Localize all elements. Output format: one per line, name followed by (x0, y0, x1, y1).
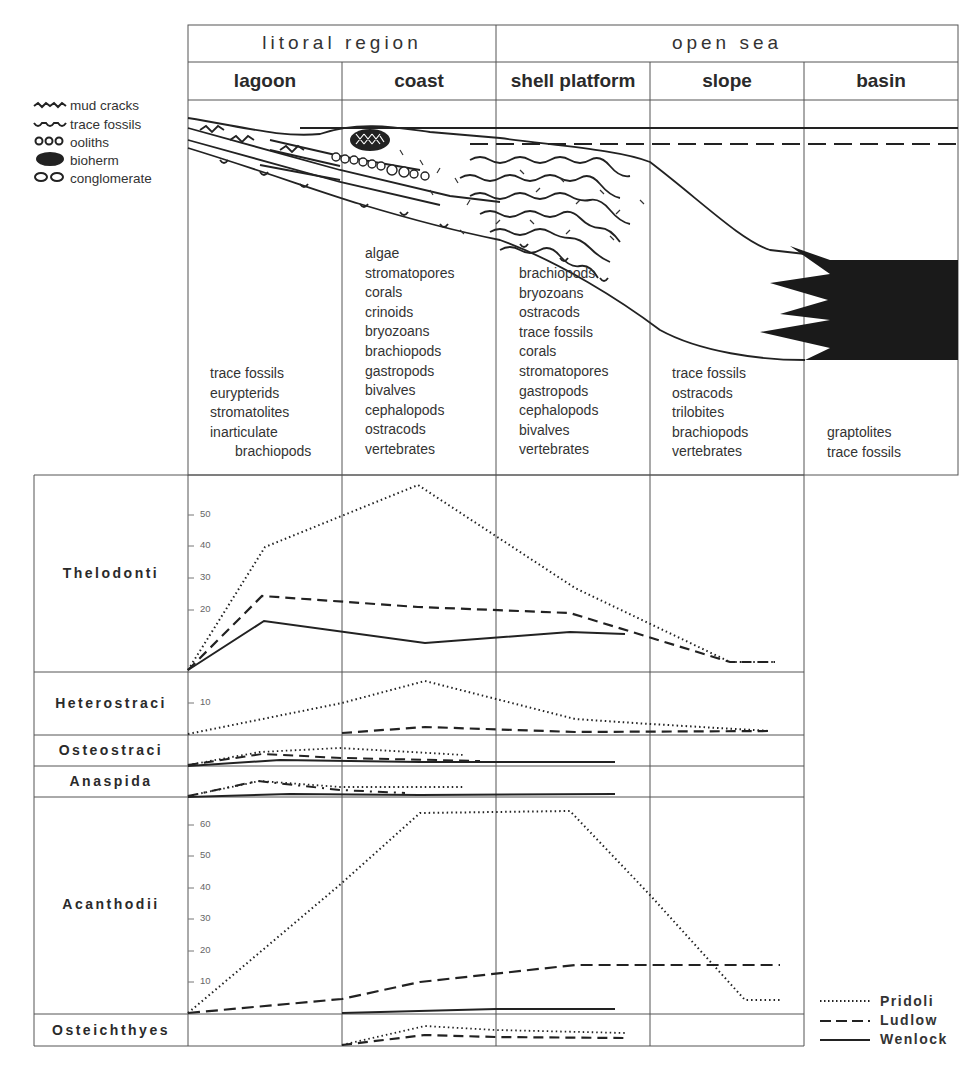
group-thelodonti: Thelodonti (34, 565, 188, 581)
tick-label: 10 (200, 696, 211, 707)
fauna-item: cephalopods (365, 401, 454, 421)
fauna-item: ostracods (672, 384, 748, 404)
fauna-item: stromatolites (210, 403, 311, 423)
tick-label: 10 (200, 975, 211, 986)
basin-shale (760, 246, 958, 360)
header-litoral-region: litoral region (188, 32, 496, 54)
anaspida-curves (188, 781, 615, 797)
acanthodii-curves (188, 811, 780, 1013)
fauna-item: brachiopods (672, 423, 748, 443)
fauna-item: graptolites (827, 423, 901, 443)
fauna-item: brachiopods (210, 442, 311, 462)
fauna-item: vertebrates (365, 440, 454, 460)
facies-diagram: litoral region open sea lagoon coast she… (0, 0, 978, 1070)
fauna-item: trace fossils (672, 364, 748, 384)
fauna-item: bivalves (519, 421, 608, 441)
fauna-lagoon: trace fossils eurypterids stromatolites … (210, 364, 311, 462)
fauna-item: bryozoans (365, 322, 454, 342)
fauna-coast: algae stromatopores corals crinoids bryo… (365, 244, 454, 460)
fauna-item: crinoids (365, 303, 454, 323)
column-lagoon: lagoon (188, 70, 342, 92)
header-open-sea: open sea (496, 32, 958, 54)
group-osteichthyes: Osteichthyes (34, 1022, 188, 1038)
tick-marks (188, 515, 194, 982)
group-anaspida: Anaspida (34, 773, 188, 789)
group-heterostraci: Heterostraci (34, 695, 188, 711)
fauna-item: stromatopores (365, 264, 454, 284)
tick-label: 30 (200, 912, 211, 923)
legend-bioherm: bioherm (70, 152, 119, 168)
sea-level-lines (300, 128, 958, 144)
fauna-item: brachiopods (519, 264, 608, 284)
legend-wenlock: Wenlock (880, 1031, 948, 1047)
fauna-item: cephalopods (519, 401, 608, 421)
fauna-item: trace fossils (827, 443, 901, 463)
fauna-slope: trace fossils ostracods trilobites brach… (672, 364, 748, 462)
tick-label: 40 (200, 881, 211, 892)
group-osteostraci: Osteostraci (34, 742, 188, 758)
tick-label: 20 (200, 944, 211, 955)
fauna-item: corals (365, 283, 454, 303)
fauna-item: bryozoans (519, 284, 608, 304)
heterostraci-curves (188, 681, 770, 734)
fauna-item: eurypterids (210, 384, 311, 404)
legend-conglomerate: conglomerate (70, 170, 152, 186)
group-acanthodii: Acanthodii (34, 896, 188, 912)
legend-pridoli: Pridoli (880, 993, 934, 1009)
fauna-item: ostracods (365, 420, 454, 440)
tick-label: 50 (200, 849, 211, 860)
fauna-basin: graptolites trace fossils (827, 423, 901, 462)
fauna-item: algae (365, 244, 454, 264)
ooliths-band (332, 153, 429, 180)
fauna-item: gastropods (519, 382, 608, 402)
fauna-item: trace fossils (519, 323, 608, 343)
fauna-item: brachiopods (365, 342, 454, 362)
thelodonti-curves (188, 485, 775, 670)
tick-label: 40 (200, 539, 211, 550)
legend-trace-fossils: trace fossils (70, 116, 141, 132)
legend-ludlow: Ludlow (880, 1012, 938, 1028)
grid-lines (34, 25, 958, 1046)
fauna-item: trace fossils (210, 364, 311, 384)
tick-label: 30 (200, 571, 211, 582)
osteichthyes-curves (342, 1026, 625, 1045)
bioherm-mound (350, 129, 390, 151)
fauna-shell-platform: brachiopods bryozoans ostracods trace fo… (519, 264, 608, 460)
fauna-item: ostracods (519, 303, 608, 323)
fauna-item: gastropods (365, 362, 454, 382)
legend-ooliths: ooliths (70, 134, 109, 150)
fauna-item: vertebrates (672, 442, 748, 462)
tick-label: 60 (200, 818, 211, 829)
fauna-item: inarticulate (210, 423, 311, 443)
period-legend-swatches (820, 1001, 870, 1040)
fauna-item: stromatopores (519, 362, 608, 382)
fauna-item: trilobites (672, 403, 748, 423)
legend-mud-cracks: mud cracks (70, 97, 139, 113)
column-shell-platform: shell platform (496, 70, 650, 92)
tick-label: 20 (200, 603, 211, 614)
fauna-item: corals (519, 342, 608, 362)
fauna-item: bivalves (365, 381, 454, 401)
symbol-icons (34, 103, 66, 181)
column-slope: slope (650, 70, 804, 92)
fauna-item: vertebrates (519, 440, 608, 460)
column-coast: coast (342, 70, 496, 92)
osteostraci-curves (188, 748, 615, 766)
tick-label: 50 (200, 508, 211, 519)
column-basin: basin (804, 70, 958, 92)
